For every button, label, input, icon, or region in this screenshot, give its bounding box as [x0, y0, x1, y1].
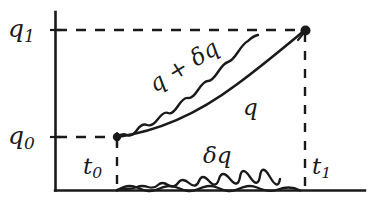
curve-label-q: q: [243, 96, 258, 119]
x-tick-label-t1-base: t: [312, 153, 321, 179]
y-tick-label-q0: q0: [8, 123, 35, 152]
variation-of-path-figure: q1 q0 t0 t1 q δq q + δq: [0, 0, 388, 206]
y-tick-label-q0-base: q: [8, 121, 24, 150]
y-tick-label-q0-subscript: 0: [24, 133, 35, 153]
x-tick-label-t0-subscript: 0: [92, 163, 102, 182]
y-tick-label-q1-subscript: 1: [24, 26, 35, 46]
curve-label-delta-q: δq: [203, 144, 232, 167]
y-tick-label-q1: q1: [8, 16, 35, 45]
x-tick-label-t1: t1: [312, 155, 331, 181]
y-tick-label-q1-base: q: [8, 14, 24, 43]
x-tick-label-t0-base: t: [83, 153, 92, 179]
x-tick-label-t1-subscript: 1: [321, 163, 331, 182]
x-tick-label-t0: t0: [83, 155, 102, 181]
